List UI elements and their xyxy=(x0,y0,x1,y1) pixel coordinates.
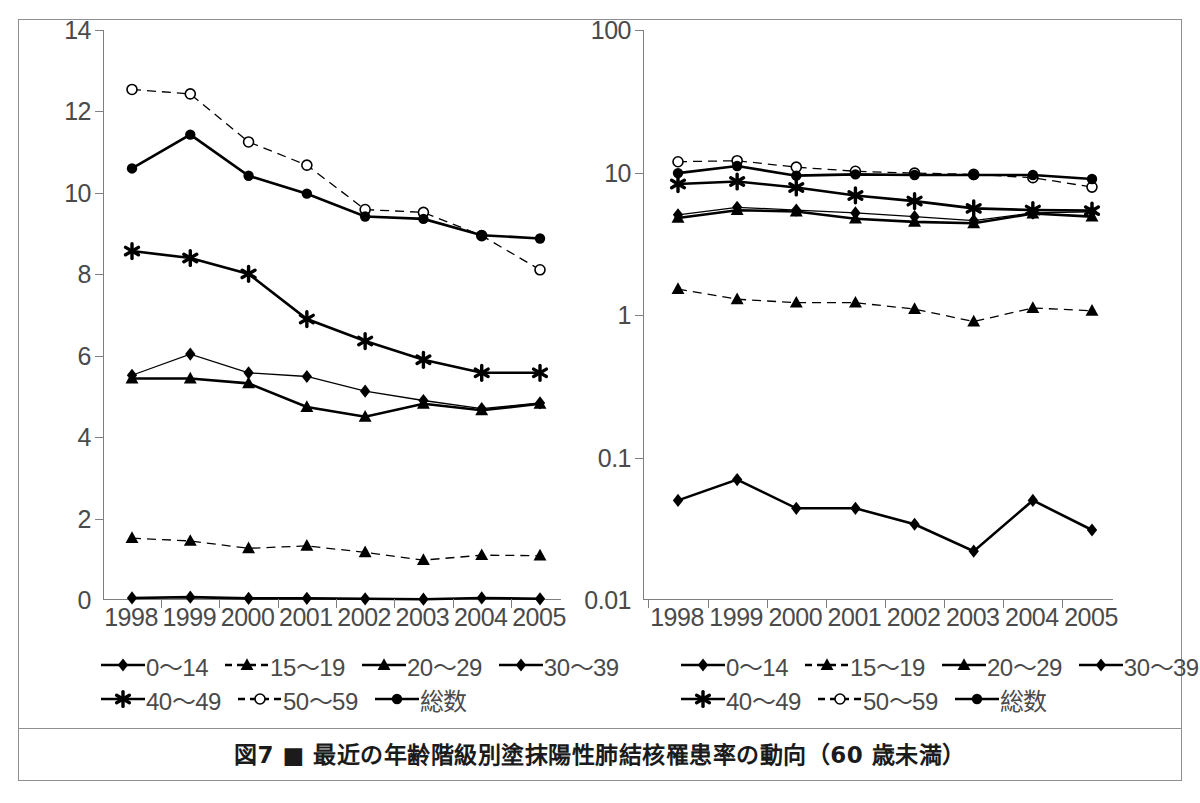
legend-label: 40〜49 xyxy=(726,682,801,717)
x-tick-label: 1999 xyxy=(162,603,216,632)
y-tick-mark xyxy=(95,519,104,520)
legend-item-0〜14[interactable]: 0〜14 xyxy=(680,648,788,683)
legend-label: 40〜49 xyxy=(146,682,221,717)
data-point-filled-circle xyxy=(732,161,742,171)
legend-swatch-diamond xyxy=(100,654,146,676)
legend-swatch-filled-circle xyxy=(954,688,1000,710)
figure-caption: 図7 ■ 最近の年齢階級別塗抹陽性肺結核罹患率の動向（60 歳未満） xyxy=(0,736,1200,770)
data-point-triangle xyxy=(1026,301,1039,313)
data-point-filled-circle xyxy=(392,694,402,704)
data-point-diamond xyxy=(732,473,742,486)
series-line-0〜14 xyxy=(678,480,1092,552)
data-point-filled-circle xyxy=(418,214,428,224)
x-tick-label: 2005 xyxy=(1064,603,1118,632)
series-canvas-right xyxy=(644,30,1114,600)
legend-item-0〜14[interactable]: 0〜14 xyxy=(100,648,208,683)
data-point-diamond xyxy=(185,347,195,360)
legend-item-総数[interactable]: 総数 xyxy=(954,682,1047,717)
x-tick-label: 2001 xyxy=(828,603,882,632)
y-tick-label: 14 xyxy=(64,16,91,45)
data-point-triangle xyxy=(849,296,862,308)
legend-right: 0〜1415〜1920〜2930〜3940〜4950〜59総数 xyxy=(680,648,1200,716)
x-tick-label: 2005 xyxy=(512,603,566,632)
x-tick-label: 2000 xyxy=(768,603,822,632)
legend-item-20〜29[interactable]: 20〜29 xyxy=(941,648,1062,683)
legend-item-30〜39[interactable]: 30〜39 xyxy=(498,648,619,683)
data-point-filled-circle xyxy=(302,188,312,198)
data-point-diamond xyxy=(909,518,919,531)
data-point-filled-circle xyxy=(1028,170,1038,180)
data-point-filled-circle xyxy=(535,233,545,243)
legend-swatch-diamond xyxy=(680,654,726,676)
caption-divider xyxy=(18,728,1182,729)
x-tick-label: 2000 xyxy=(221,603,275,632)
legend-label: 総数 xyxy=(1000,682,1047,717)
legend-swatch-triangle xyxy=(224,654,270,676)
legend-swatch-filled-circle xyxy=(374,688,420,710)
y-tick-label: 8 xyxy=(78,260,91,289)
series-line-50〜59 xyxy=(132,89,540,269)
data-point-filled-circle xyxy=(477,230,487,240)
legend-row: 40〜4950〜59総数 xyxy=(680,682,1200,716)
y-tick-label: 12 xyxy=(64,97,91,126)
data-point-open-circle xyxy=(255,694,265,704)
y-tick-mark xyxy=(635,315,644,316)
legend-label: 15〜19 xyxy=(270,648,345,683)
data-point-asterisk xyxy=(359,334,372,349)
legend-label: 50〜59 xyxy=(863,682,938,717)
data-point-diamond xyxy=(185,591,195,604)
x-tick-label: 2002 xyxy=(887,603,941,632)
legend-item-15〜19[interactable]: 15〜19 xyxy=(804,648,925,683)
data-point-diamond xyxy=(516,658,526,671)
data-point-open-circle xyxy=(127,84,137,94)
legend-label: 20〜29 xyxy=(407,648,482,683)
data-point-filled-circle xyxy=(1087,174,1097,184)
x-tick-label: 2004 xyxy=(1005,603,1059,632)
data-point-diamond xyxy=(360,385,370,398)
data-point-asterisk xyxy=(300,312,313,327)
y-tick-label: 0.1 xyxy=(598,443,631,472)
y-tick-mark xyxy=(95,274,104,275)
legend-item-40〜49[interactable]: 40〜49 xyxy=(100,682,221,717)
y-tick-mark xyxy=(95,193,104,194)
y-tick-label: 1 xyxy=(618,301,631,330)
legend-item-20〜29[interactable]: 20〜29 xyxy=(361,648,482,683)
y-tick-label: 100 xyxy=(591,16,631,45)
legend-swatch-triangle xyxy=(804,654,850,676)
x-tick-label: 2004 xyxy=(454,603,508,632)
legend-item-15〜19[interactable]: 15〜19 xyxy=(224,648,345,683)
y-tick-mark xyxy=(95,111,104,112)
y-axis-labels-left: 02468101214 xyxy=(45,30,97,630)
data-point-open-circle xyxy=(244,137,254,147)
legend-item-総数[interactable]: 総数 xyxy=(374,682,467,717)
data-point-open-circle xyxy=(302,160,312,170)
legend-item-50〜59[interactable]: 50〜59 xyxy=(817,682,938,717)
legend-item-40〜49[interactable]: 40〜49 xyxy=(680,682,801,717)
legend-label: 15〜19 xyxy=(850,648,925,683)
data-point-filled-circle xyxy=(127,163,137,173)
x-tick-label: 1998 xyxy=(104,603,158,632)
x-tick-label: 2003 xyxy=(946,603,1000,632)
legend-item-30〜39[interactable]: 30〜39 xyxy=(1078,648,1199,683)
data-point-filled-circle xyxy=(972,694,982,704)
chart-panel-left: 02468101214 1998199920002001200220032004… xyxy=(45,30,590,630)
y-tick-label: 2 xyxy=(78,504,91,533)
y-axis-labels-right: 1001010.10.01 xyxy=(585,30,637,630)
y-tick-label: 10 xyxy=(64,178,91,207)
y-tick-label: 4 xyxy=(78,423,91,452)
y-tick-label: 0 xyxy=(78,586,91,615)
data-point-filled-circle xyxy=(185,129,195,139)
data-point-triangle xyxy=(672,282,685,294)
data-point-open-circle xyxy=(673,157,683,167)
data-point-filled-circle xyxy=(791,170,801,180)
legend-item-50〜59[interactable]: 50〜59 xyxy=(237,682,358,717)
plot-wrapper-right: 1001010.10.01 19981999200020012002200320… xyxy=(585,30,1140,630)
legend-swatch-open-circle xyxy=(817,688,863,710)
legend-swatch-triangle xyxy=(361,654,407,676)
data-point-diamond xyxy=(1087,523,1097,536)
legend-label: 30〜39 xyxy=(1124,648,1199,683)
data-point-filled-circle xyxy=(360,211,370,221)
legend-swatch-triangle xyxy=(941,654,987,676)
data-point-diamond xyxy=(1096,658,1106,671)
figure-root: 02468101214 1998199920002001200220032004… xyxy=(0,0,1200,803)
